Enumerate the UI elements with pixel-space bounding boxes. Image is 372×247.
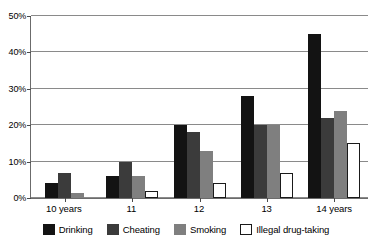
legend-label: Drinking	[59, 224, 93, 235]
bar[interactable]	[45, 183, 58, 198]
x-tick-mark	[65, 198, 66, 202]
x-tick-mark	[132, 198, 133, 202]
x-tick-mark	[267, 198, 268, 202]
bar[interactable]	[132, 176, 145, 198]
bar-chart: 0% 10% 20% 30% 40% 50%	[0, 0, 372, 247]
bar[interactable]	[145, 191, 158, 198]
bar[interactable]	[321, 118, 334, 198]
bar[interactable]	[71, 193, 84, 198]
legend-label: Cheating	[123, 224, 160, 235]
plot-area: 0% 10% 20% 30% 40% 50%	[30, 16, 368, 199]
bar[interactable]	[334, 111, 347, 198]
bar[interactable]	[213, 183, 226, 198]
bar-group	[31, 16, 98, 198]
legend-swatch-icon	[174, 224, 186, 235]
bar[interactable]	[58, 173, 71, 198]
legend-label: Smoking	[190, 224, 226, 235]
bar-groups	[31, 16, 368, 198]
bar[interactable]	[119, 162, 132, 198]
bar[interactable]	[267, 125, 280, 198]
y-tick-label: 0%	[13, 194, 26, 203]
y-tick-label: 40%	[9, 48, 26, 57]
legend-item[interactable]: Illegal drug-taking	[240, 224, 329, 235]
x-axis-label: 14 years	[300, 203, 368, 214]
bar[interactable]	[106, 176, 119, 198]
x-axis-label: 10 years	[30, 203, 98, 214]
chart-legend: DrinkingCheatingSmokingIllegal drug-taki…	[0, 224, 372, 235]
legend-swatch-icon	[107, 224, 119, 235]
y-tick-label: 50%	[9, 12, 26, 21]
bar-group	[233, 16, 300, 198]
x-tick-mark	[200, 198, 201, 202]
bar[interactable]	[174, 125, 187, 198]
x-axis-label: 13	[233, 203, 301, 214]
x-axis-label: 11	[98, 203, 166, 214]
legend-swatch-icon	[43, 224, 55, 235]
x-axis-labels: 10 years11121314 years	[30, 203, 368, 214]
bar[interactable]	[347, 143, 360, 198]
bar-group	[98, 16, 165, 198]
bar-group	[166, 16, 233, 198]
bar[interactable]	[200, 151, 213, 198]
bar-group	[301, 16, 368, 198]
x-axis-label: 12	[165, 203, 233, 214]
bar[interactable]	[254, 125, 267, 198]
bar[interactable]	[280, 173, 293, 198]
legend-item[interactable]: Drinking	[43, 224, 93, 235]
legend-item[interactable]: Smoking	[174, 224, 226, 235]
bar[interactable]	[241, 96, 254, 198]
y-tick-label: 10%	[9, 157, 26, 166]
y-tick-label: 20%	[9, 121, 26, 130]
bar[interactable]	[187, 132, 200, 198]
y-tick-label: 30%	[9, 84, 26, 93]
legend-item[interactable]: Cheating	[107, 224, 160, 235]
legend-swatch-icon	[240, 224, 252, 235]
y-tick-mark	[27, 198, 31, 199]
bar[interactable]	[308, 34, 321, 198]
x-tick-mark	[334, 198, 335, 202]
legend-label: Illegal drug-taking	[256, 224, 329, 235]
